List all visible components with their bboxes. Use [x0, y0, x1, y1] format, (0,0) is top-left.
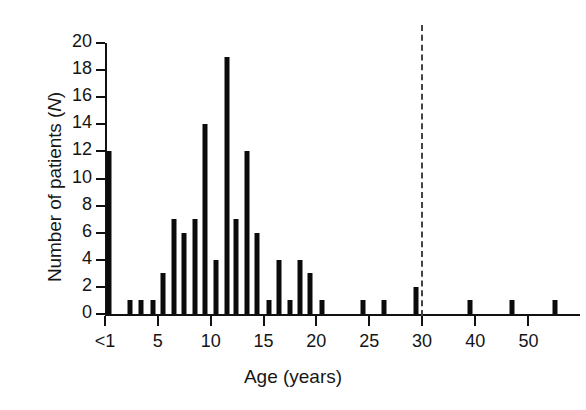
bar	[224, 57, 229, 314]
bar	[319, 300, 324, 314]
bar	[182, 233, 187, 314]
bar	[203, 124, 208, 314]
y-tick-label: 6	[82, 221, 92, 241]
y-tick-label: 0	[82, 302, 92, 322]
x-tick-label: 30	[412, 331, 432, 351]
y-axis-title: Number of patients (N)	[44, 37, 66, 337]
bar	[553, 300, 558, 314]
x-axis-title: Age (years)	[0, 366, 586, 388]
bar	[381, 300, 386, 314]
bar	[467, 300, 472, 314]
y-tick-label: 4	[82, 248, 92, 268]
x-tick-label: <1	[95, 331, 116, 351]
histogram-figure: Number of patients (N) 02468101214161820…	[0, 0, 586, 410]
bar	[107, 151, 112, 314]
y-tick: 20	[96, 42, 105, 44]
y-tick: 2	[96, 286, 105, 288]
y-axis-title-text: Number of patients (N)	[44, 92, 65, 282]
x-tick-label: 10	[201, 331, 221, 351]
bar	[150, 300, 155, 314]
y-tick: 4	[96, 259, 105, 261]
bar	[298, 260, 303, 314]
x-tick	[421, 316, 423, 326]
x-tick-label: 20	[306, 331, 326, 351]
bar	[138, 300, 143, 314]
y-tick: 8	[96, 205, 105, 207]
y-tick: 10	[96, 178, 105, 180]
y-tick-label: 14	[72, 112, 92, 132]
bar	[413, 287, 418, 314]
y-tick: 14	[96, 123, 105, 125]
x-tick	[527, 316, 529, 326]
bar	[161, 273, 166, 314]
bar	[255, 233, 260, 314]
bar	[277, 260, 282, 314]
x-tick-label: 40	[465, 331, 485, 351]
y-tick: 0	[96, 313, 105, 315]
x-tick	[368, 316, 370, 326]
y-tick-label: 8	[82, 194, 92, 214]
bar	[171, 219, 176, 314]
x-tick-label: 15	[253, 331, 273, 351]
bar	[192, 219, 197, 314]
y-tick-label: 12	[72, 139, 92, 159]
y-tick-label: 18	[72, 58, 92, 78]
y-tick-label: 2	[82, 275, 92, 295]
y-tick: 18	[96, 69, 105, 71]
x-tick	[474, 316, 476, 326]
bar	[510, 300, 515, 314]
x-tick	[263, 316, 265, 326]
bar	[360, 300, 365, 314]
y-axis-title-italic-n: N	[44, 98, 65, 112]
x-tick	[104, 316, 106, 326]
bar	[307, 273, 312, 314]
age-30-cutoff-dashed-line	[421, 25, 423, 316]
bar	[266, 300, 271, 314]
x-tick	[157, 316, 159, 326]
x-tick	[210, 316, 212, 326]
bar	[213, 260, 218, 314]
y-tick-label: 16	[72, 85, 92, 105]
x-tick-label: 50	[518, 331, 538, 351]
bar	[128, 300, 133, 314]
x-tick-label: 5	[153, 331, 163, 351]
x-axis-line	[105, 314, 580, 316]
x-tick-label: 25	[359, 331, 379, 351]
bar	[244, 151, 249, 314]
y-tick-label: 10	[72, 167, 92, 187]
y-tick-label: 20	[72, 31, 92, 51]
plot-area: 02468101214161820 <1510152025304050	[105, 43, 580, 314]
y-tick: 16	[96, 96, 105, 98]
x-tick	[315, 316, 317, 326]
bar	[287, 300, 292, 314]
y-tick: 6	[96, 232, 105, 234]
bar	[234, 219, 239, 314]
y-tick: 12	[96, 150, 105, 152]
